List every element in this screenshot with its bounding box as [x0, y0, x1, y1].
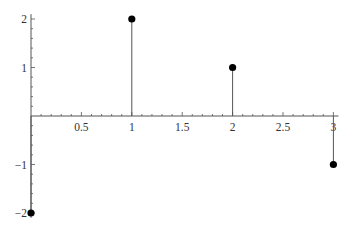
y-tick-label: −1 — [15, 159, 27, 171]
y-tick-label: −2 — [15, 207, 27, 219]
x-tick-label: 1 — [129, 121, 135, 133]
x-tick-label: 0.5 — [74, 121, 89, 133]
x-tick-label: 1.5 — [175, 121, 190, 133]
stem-marker — [128, 15, 135, 22]
x-tick-label: 2.5 — [276, 121, 291, 133]
y-tick-label: 1 — [21, 62, 27, 74]
y-tick-label: 2 — [21, 13, 27, 25]
stem-plot: 0.511.522.53 −2−112 — [0, 0, 362, 232]
x-axis-ticks: 0.511.522.53 — [41, 112, 336, 133]
x-tick-label: 2 — [230, 121, 236, 133]
stem-marker — [229, 64, 236, 71]
stem-marker — [330, 161, 337, 168]
stem-marker — [27, 209, 34, 216]
axes — [31, 14, 338, 218]
